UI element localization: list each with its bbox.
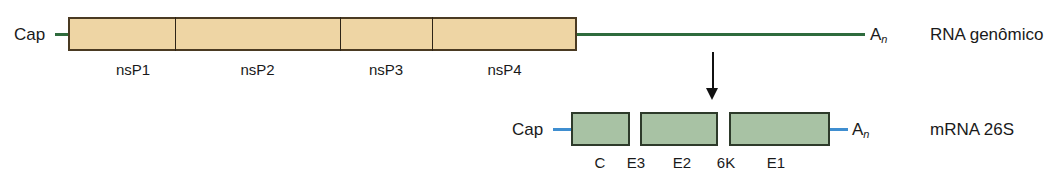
genomic-poly-a-tail-line (577, 33, 865, 36)
mrna-box-e2 (640, 112, 718, 146)
mrna-row-label: mRNA 26S (930, 121, 1014, 138)
mrna-cap-label: Cap (512, 121, 543, 138)
genomic-divider-1 (175, 17, 176, 51)
genomic-segment-label-nsp3: nsP3 (344, 62, 428, 77)
rna-genome-diagram: Cap An RNA genômico nsP1 nsP2 nsP3 nsP4 … (0, 0, 1060, 177)
genomic-segment-label-nsp1: nsP1 (91, 62, 175, 77)
genomic-segment-label-nsp4: nsP4 (462, 62, 547, 77)
mrna-poly-a-connector (830, 128, 848, 131)
mrna-cap-connector (553, 128, 571, 131)
mrna-segment-label-e1: E1 (755, 155, 797, 170)
genomic-poly-a-label: An (870, 26, 887, 43)
genomic-poly-a-letter: A (870, 25, 881, 44)
genomic-orf-box (68, 17, 577, 51)
genomic-row-label: RNA genômico (930, 26, 1043, 43)
genomic-divider-2 (340, 17, 341, 51)
mrna-poly-a-letter: A (852, 120, 863, 139)
arrow-shaft (712, 52, 714, 90)
mrna-segment-label-e3: E3 (615, 155, 657, 170)
mrna-poly-a-subscript: n (863, 128, 869, 140)
mrna-box-capsid (571, 112, 630, 146)
genomic-divider-3 (432, 17, 433, 51)
mrna-segment-label-6k: 6K (703, 155, 749, 170)
genomic-poly-a-subscript: n (881, 33, 887, 45)
genomic-cap-connector (55, 33, 69, 36)
arrow-head (706, 88, 718, 100)
mrna-segment-label-e2: E2 (661, 155, 703, 170)
mrna-poly-a-label: An (852, 121, 869, 138)
genomic-segment-label-nsp2: nsP2 (215, 62, 300, 77)
genomic-cap-label: Cap (14, 26, 45, 43)
mrna-box-e1 (729, 112, 830, 146)
